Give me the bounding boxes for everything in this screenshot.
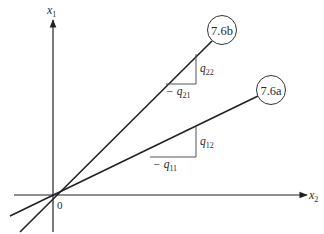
x1-axis-label: x1 [46,3,56,19]
slope-triangle-a [150,127,196,157]
origin-label: 0 [57,199,63,211]
q12-label: q12 [200,135,214,150]
x2-axis-label: x2 [308,188,318,204]
q22-label: q22 [200,62,214,77]
line-label-7-6a: 7.6a [260,84,282,98]
diagram-canvas: 7.6b 7.6a x1 x2 0 q22 − q21 q12 − q11 [0,0,324,234]
slope-triangle-b [166,54,196,84]
neg-q11-label: − q11 [153,158,177,173]
diagram-svg: 7.6b 7.6a x1 x2 0 q22 − q21 q12 − q11 [0,0,324,234]
neg-q21-label: − q21 [166,85,190,100]
line-7-6b [20,41,212,232]
line-7-6a [10,96,258,216]
line-label-7-6b: 7.6b [211,24,233,38]
